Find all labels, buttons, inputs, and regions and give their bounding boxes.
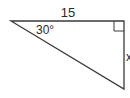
top-side-label: 15 <box>61 5 75 20</box>
angle-label: 30° <box>36 23 54 37</box>
right-side-label: x <box>126 50 130 64</box>
triangle-diagram: 15 30° x <box>0 0 130 98</box>
right-triangle <box>11 21 124 89</box>
right-angle-marker <box>114 21 124 31</box>
